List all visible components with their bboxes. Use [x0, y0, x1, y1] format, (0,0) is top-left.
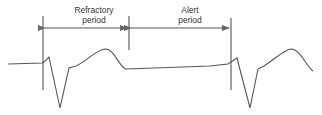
- ecg-waveform: [8, 49, 313, 108]
- ecg-diagram: [0, 0, 322, 115]
